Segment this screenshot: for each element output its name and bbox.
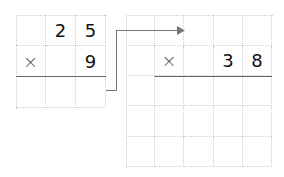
answer-cell xyxy=(184,106,214,137)
multiply-sign: × xyxy=(16,46,46,77)
answer-cell xyxy=(16,77,46,108)
cell xyxy=(126,46,155,76)
left-multiplication-grid: 2 5 × 9 xyxy=(16,15,106,108)
cell xyxy=(184,15,214,46)
answer-cell xyxy=(214,106,243,137)
right-multiplication-grid: × 3 8 xyxy=(126,15,272,167)
answer-cell xyxy=(76,77,106,108)
answer-cell xyxy=(126,76,155,106)
answer-cell xyxy=(126,106,155,137)
cell xyxy=(16,15,46,46)
digit-cell: 3 xyxy=(214,46,243,76)
cell xyxy=(243,15,272,46)
answer-cell xyxy=(243,137,272,167)
answer-cell xyxy=(155,76,184,106)
answer-cell xyxy=(243,106,272,137)
answer-cell xyxy=(155,137,184,167)
digit-cell: 9 xyxy=(76,46,106,77)
answer-cell xyxy=(214,137,243,167)
cell xyxy=(126,15,155,46)
digit-cell: 2 xyxy=(46,15,76,46)
cell xyxy=(155,15,184,46)
product-rule xyxy=(155,76,272,77)
digit-cell: 8 xyxy=(243,46,272,76)
cell xyxy=(214,15,243,46)
product-rule xyxy=(16,76,106,77)
digit-cell: 5 xyxy=(76,15,106,46)
multiply-sign: × xyxy=(155,46,184,76)
answer-cell xyxy=(214,76,243,106)
answer-cell xyxy=(184,76,214,106)
answer-cell xyxy=(155,106,184,137)
connector-line xyxy=(106,90,116,91)
answer-cell xyxy=(126,137,155,167)
cell xyxy=(184,46,214,76)
answer-cell xyxy=(46,77,76,108)
cell xyxy=(46,46,76,77)
answer-cell xyxy=(243,76,272,106)
answer-cell xyxy=(184,137,214,167)
